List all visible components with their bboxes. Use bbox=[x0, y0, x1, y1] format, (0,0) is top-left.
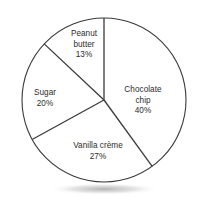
slice-label-chocolate-chip: Chocolate chip 40% bbox=[124, 85, 161, 117]
slice-label-peanut-butter-name-line-2: butter bbox=[71, 40, 97, 51]
slice-label-sugar-value: 20% bbox=[34, 99, 56, 110]
slice-label-vanilla-creme: Vanilla crème 27% bbox=[73, 141, 123, 162]
slice-label-vanilla-creme-name: Vanilla crème bbox=[73, 141, 123, 152]
slice-label-sugar: Sugar 20% bbox=[34, 88, 56, 109]
pie-shadow bbox=[48, 183, 160, 195]
slice-label-chocolate-chip-name-line-2: chip bbox=[124, 96, 161, 107]
slice-label-sugar-name: Sugar bbox=[34, 88, 56, 99]
pie-chart-graphic bbox=[0, 0, 203, 204]
slice-label-peanut-butter-value: 13% bbox=[71, 50, 97, 61]
slice-label-chocolate-chip-value: 40% bbox=[124, 106, 161, 117]
slice-label-chocolate-chip-name-line-1: Chocolate bbox=[124, 85, 161, 96]
slice-label-peanut-butter: Peanut butter 13% bbox=[71, 29, 97, 61]
slice-label-vanilla-creme-value: 27% bbox=[73, 152, 123, 163]
pie-chart: Chocolate chip 40% Vanilla crème 27% Sug… bbox=[0, 0, 203, 204]
slice-label-peanut-butter-name-line-1: Peanut bbox=[71, 29, 97, 40]
